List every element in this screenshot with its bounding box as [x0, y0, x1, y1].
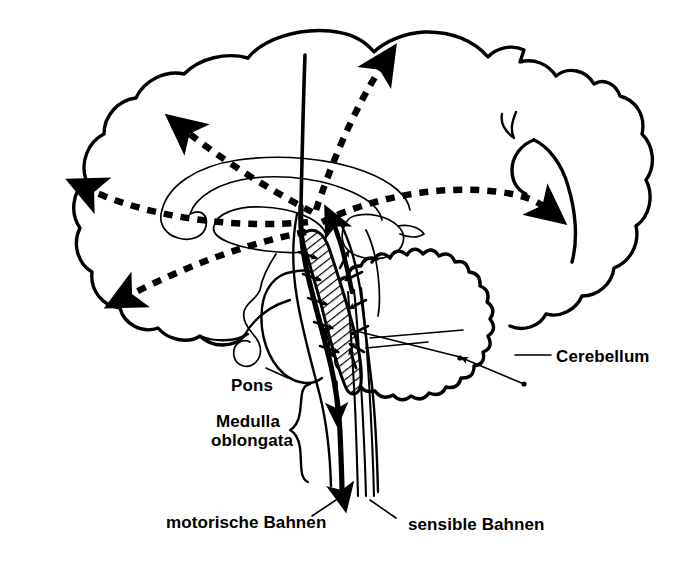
dashed-projection-3 [128, 232, 306, 296]
label-sensible-bahnen: sensible Bahnen [408, 515, 545, 534]
cerebellar-connection-arrows [352, 330, 527, 387]
pons-body [261, 270, 324, 382]
dashed-projection-4 [316, 66, 382, 210]
dashed-projection-1 [186, 131, 312, 212]
brain-reticular-formation-figure: Cerebellum Pons Medulla oblongata motori… [0, 0, 693, 564]
label-medulla-oblongata-line2: oblongata [211, 431, 294, 450]
leader-sensible-bahnen [370, 500, 396, 518]
label-leaders [266, 355, 551, 518]
label-motorische-bahnen: motorische Bahnen [166, 513, 326, 532]
corpus-callosum [161, 157, 410, 239]
label-medulla-oblongata-line1: Medulla [216, 412, 280, 431]
diagram-canvas: Cerebellum Pons Medulla oblongata motori… [0, 0, 693, 564]
label-cerebellum: Cerebellum [556, 347, 650, 366]
label-pons: Pons [231, 376, 273, 395]
